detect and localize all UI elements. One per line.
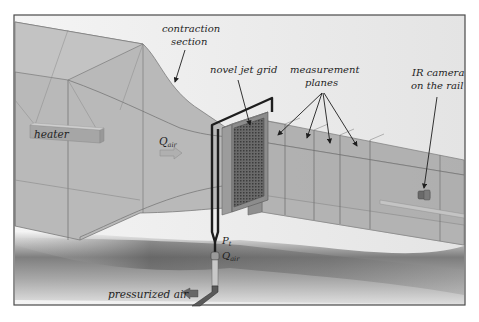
jet-grid <box>222 112 268 215</box>
measurement-label-line2: planes <box>305 77 338 88</box>
q-jet-label: Q <box>222 250 230 261</box>
heater-label: heater <box>34 128 70 140</box>
wind-tunnel-diagram: heater Qair <box>0 0 479 322</box>
pressurized-air-label: pressurized air <box>108 288 189 300</box>
measurement-label-line1: measurement <box>290 64 360 75</box>
ir-camera-label-line1: IR camera <box>411 67 464 78</box>
jet-grid-label: novel jet grid <box>210 64 277 75</box>
q-flow-sub: air <box>168 141 178 149</box>
contraction-label-line2: section <box>171 36 207 47</box>
ir-camera <box>418 190 430 200</box>
pt-sub: t <box>229 240 232 248</box>
valve <box>211 252 219 286</box>
q-jet-sub: air <box>230 255 240 263</box>
ir-camera-label-line2: on the rail <box>411 80 463 91</box>
contraction-label-line1: contraction <box>162 23 220 34</box>
